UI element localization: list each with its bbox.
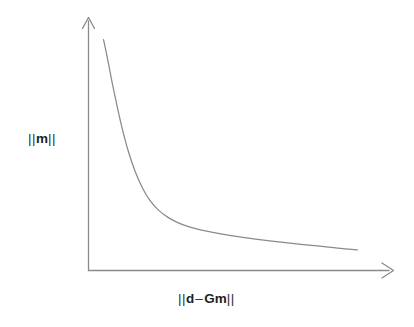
l-curve-figure: ||m|| ||d–Gm|| — [0, 0, 414, 327]
plot-canvas — [0, 0, 414, 327]
l-curve-data-path — [104, 40, 358, 250]
x-label-open-bars: || — [178, 291, 186, 306]
y-label-close-bars: || — [48, 131, 56, 146]
y-axis-label: ||m|| — [28, 132, 56, 146]
y-label-symbol: m — [36, 131, 48, 146]
x-label-close-bars: || — [227, 291, 235, 306]
x-label-symbol-gm: Gm — [204, 291, 227, 306]
x-label-operator: – — [194, 291, 204, 306]
y-label-open-bars: || — [28, 131, 36, 146]
x-axis-label: ||d–Gm|| — [178, 292, 235, 306]
